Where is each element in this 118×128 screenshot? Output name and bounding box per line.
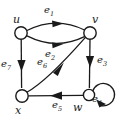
- edge-label-e1: e1: [44, 5, 54, 18]
- edge-e2: [27, 36, 85, 48]
- edge-label-e5: e5: [52, 100, 62, 113]
- edge-label-e3: e3: [97, 55, 107, 68]
- edge-label-e7: e7: [1, 59, 11, 72]
- edge-e1: [27, 21, 85, 31]
- edge-e3: [86, 39, 94, 88]
- edge-label-e4: e4: [92, 94, 102, 107]
- edge-e7: [17, 39, 25, 88]
- edge-label-e6: e6: [37, 57, 47, 70]
- directed-graph-figure: u v x w e1 e2 e3 e4 e5 e6 e7: [0, 0, 118, 128]
- vertex-label-v: v: [92, 14, 98, 25]
- vertex-u: [15, 27, 27, 39]
- vertex-label-u: u: [13, 14, 20, 25]
- vertex-label-x: x: [15, 105, 21, 116]
- vertex-label-w: w: [73, 102, 82, 113]
- vertex-v: [84, 27, 96, 39]
- vertex-x: [16, 90, 28, 102]
